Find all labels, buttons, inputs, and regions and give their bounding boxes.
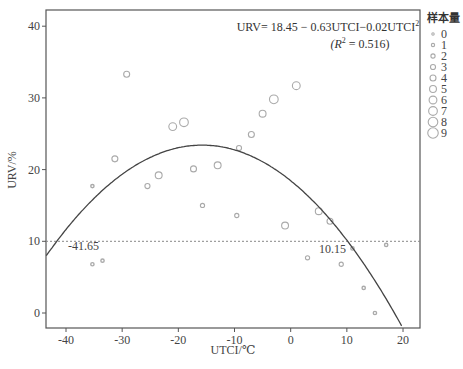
data-point [214,162,221,169]
data-point [292,82,300,90]
legend-marker [429,107,438,116]
fit-curve [46,145,401,326]
y-tick-label: 0 [34,306,40,320]
data-point [124,71,130,77]
x-tick-label: 10 [341,333,353,347]
x-tick-label: -20 [170,333,186,347]
legend-title: 样本量 [427,11,460,25]
scatter-chart: -40-30-20-1001020010203040 UTCI/℃ URV/% … [0,0,463,369]
quadratic-fit-curve [46,145,401,326]
y-tick-label: 20 [28,163,40,177]
data-point [236,146,241,151]
legend-marker [430,86,437,93]
legend: 样本量 0123456789 [427,11,460,140]
y-tick-label: 40 [28,19,40,33]
data-point [259,110,266,117]
annotation-left-root: -41.65 [68,239,99,253]
y-tick-label: 30 [28,91,40,105]
y-axis-label: URV/% [5,151,19,189]
x-tick-label: -30 [114,333,130,347]
axis-ticks: -40-30-20-1001020010203040 [28,19,409,347]
data-point [101,259,104,262]
data-point [191,166,197,172]
legend-marker [430,64,435,69]
data-point [282,222,289,229]
equation-main: URV= 18.45 − 0.63UTCI−0.02UTCI [237,20,416,34]
legend-label: 9 [441,126,447,140]
x-axis-label: UTCI/℃ [211,343,256,357]
data-point [155,172,162,179]
r-value: = 0.516) [346,37,390,51]
data-point [235,213,239,217]
equation-sup: 2 [415,19,419,28]
annotation-right-root: 10.15 [319,242,346,256]
data-point [269,95,278,104]
data-point [91,263,94,266]
equation-line-1: URV= 18.45 − 0.63UTCI−0.02UTCI2 [237,19,420,34]
x-tick-label: 0 [288,333,294,347]
data-point [169,123,177,131]
plot-border [46,10,420,328]
legend-marker [431,43,434,46]
data-point [305,256,309,260]
data-point [145,184,150,189]
data-point [91,184,94,187]
legend-marker [428,128,439,139]
data-point [373,311,376,314]
data-point [112,156,118,162]
r-label: (R [330,37,342,51]
legend-marker [430,75,436,81]
data-point [339,262,343,266]
data-point [180,118,189,127]
plot-frame [46,10,420,328]
x-tick-label: -40 [58,333,74,347]
legend-marker [428,117,438,127]
y-tick-label: 10 [28,234,40,248]
scatter-points [91,71,388,314]
legend-marker [432,33,434,35]
data-point [248,131,254,137]
data-point [385,243,388,246]
legend-marker [431,54,435,58]
x-tick-label: 20 [397,333,409,347]
legend-marker [429,96,437,104]
data-point [362,286,365,289]
data-point [200,203,204,207]
equation-line-2: (R2 = 0.516) [330,36,389,51]
equation-box: URV= 18.45 − 0.63UTCI−0.02UTCI2 (R2 = 0.… [237,19,420,51]
